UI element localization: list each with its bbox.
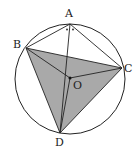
- label-d: D: [55, 136, 64, 149]
- label-b: B: [13, 38, 21, 51]
- label-c: C: [124, 62, 132, 75]
- geometry-diagram: A B C D O: [0, 0, 138, 152]
- segment-ab: [26, 24, 70, 48]
- center-point-o: [69, 77, 72, 80]
- label-a: A: [64, 7, 74, 20]
- angle-mark-dot-left: [66, 29, 68, 31]
- label-o: O: [73, 79, 82, 92]
- angle-mark-dot-right: [72, 29, 74, 31]
